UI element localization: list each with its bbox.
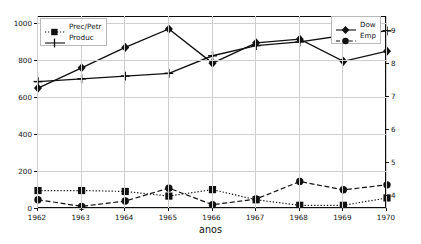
- right-tick-mark: [386, 162, 389, 163]
- x-axis-label: anos: [0, 224, 421, 235]
- marker-circle-dashed-icon: [335, 31, 357, 41]
- x-tick-label: 1965: [150, 213, 186, 222]
- left-tick-mark: [34, 97, 37, 98]
- x-tick-mark: [255, 208, 256, 211]
- left-tick-label: 200: [2, 167, 32, 176]
- right-tick-label: 6: [391, 125, 396, 134]
- x-tick-mark: [168, 208, 169, 211]
- x-tick-label: 1968: [281, 213, 317, 222]
- x-tick-mark: [37, 208, 38, 211]
- marker-diamond-solid-icon: [335, 20, 357, 30]
- gridline-vertical: [299, 16, 300, 208]
- left-tick-label: 0: [2, 204, 32, 213]
- right-tick-mark: [386, 129, 389, 130]
- legend-entry-prec-petr: Prec/Petr: [44, 21, 102, 32]
- legend-left: Prec/Petr Produc: [40, 18, 107, 46]
- chart-figure: 02004006008001000 456789 196219631964196…: [0, 0, 421, 244]
- legend-label-produc: Produc: [69, 33, 94, 42]
- x-tick-label: 1964: [106, 213, 142, 222]
- x-tick-label: 1967: [237, 213, 273, 222]
- legend-entry-emp: Emp: [335, 30, 376, 41]
- x-tick-mark: [124, 208, 125, 211]
- gridline-vertical: [37, 16, 38, 208]
- gridline-vertical: [212, 16, 213, 208]
- x-tick-mark: [342, 208, 343, 211]
- legend-label-emp: Emp: [360, 31, 376, 40]
- left-tick-mark: [34, 134, 37, 135]
- left-tick-mark: [34, 23, 37, 24]
- legend-label-prec-petr: Prec/Petr: [69, 22, 102, 31]
- right-tick-mark: [386, 30, 389, 31]
- x-tick-mark: [212, 208, 213, 211]
- gridline-vertical: [386, 16, 387, 208]
- left-tick-label: 1000: [2, 19, 32, 28]
- legend-entry-dow: Dow: [335, 19, 376, 30]
- x-tick-label: 1966: [194, 213, 230, 222]
- gridline-vertical: [255, 16, 256, 208]
- legend-label-dow: Dow: [360, 20, 376, 29]
- marker-plus-solid-icon: [44, 33, 66, 43]
- right-tick-label: 7: [391, 92, 396, 101]
- left-tick-label: 600: [2, 93, 32, 102]
- right-tick-label: 8: [391, 59, 396, 68]
- x-tick-mark: [81, 208, 82, 211]
- left-tick-mark: [34, 60, 37, 61]
- right-tick-mark: [386, 195, 389, 196]
- right-tick-label: 9: [391, 26, 396, 35]
- right-tick-mark: [386, 63, 389, 64]
- right-tick-label: 4: [391, 191, 396, 200]
- marker-square-dotted-icon: [44, 22, 66, 32]
- gridline-vertical: [168, 16, 169, 208]
- gridline-vertical: [124, 16, 125, 208]
- left-tick-label: 800: [2, 56, 32, 65]
- legend-entry-produc: Produc: [44, 32, 102, 43]
- x-tick-label: 1962: [19, 213, 55, 222]
- x-tick-label: 1970: [368, 213, 404, 222]
- left-tick-mark: [34, 171, 37, 172]
- x-tick-mark: [386, 208, 387, 211]
- x-tick-mark: [299, 208, 300, 211]
- x-tick-label: 1969: [324, 213, 360, 222]
- legend-right: Dow Emp: [331, 16, 381, 44]
- right-tick-mark: [386, 96, 389, 97]
- x-tick-label: 1963: [63, 213, 99, 222]
- right-tick-label: 5: [391, 158, 396, 167]
- left-tick-label: 400: [2, 130, 32, 139]
